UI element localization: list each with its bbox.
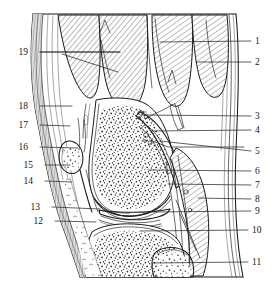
quadriceps-muscle-belly-anterior bbox=[58, 15, 100, 98]
label-numbers-right: 1234567891011 bbox=[252, 36, 262, 267]
label-number-15: 15 bbox=[24, 160, 34, 170]
anatomy-drawing-canvas: 1918171615141312 1234567891011 bbox=[0, 0, 280, 291]
label-number-18: 18 bbox=[19, 101, 29, 111]
hamstring-muscle-belly-posterior bbox=[152, 15, 193, 106]
label-number-13: 13 bbox=[31, 202, 41, 212]
label-number-17: 17 bbox=[19, 120, 29, 130]
leader-line-4 bbox=[152, 130, 251, 131]
label-number-3: 3 bbox=[255, 111, 260, 121]
femur-shaft-and-condyle bbox=[89, 98, 174, 219]
label-number-16: 16 bbox=[19, 142, 29, 152]
label-number-11: 11 bbox=[252, 257, 261, 267]
gastrocnemius-muscle-belly bbox=[192, 15, 228, 97]
label-number-9: 9 bbox=[255, 206, 260, 216]
label-number-6: 6 bbox=[255, 166, 260, 176]
label-number-8: 8 bbox=[255, 194, 260, 204]
label-number-2: 2 bbox=[255, 57, 260, 67]
label-number-10: 10 bbox=[252, 225, 262, 235]
label-number-4: 4 bbox=[255, 125, 260, 135]
label-number-7: 7 bbox=[255, 180, 260, 190]
quadriceps-muscle-belly-middle bbox=[99, 15, 148, 110]
label-number-12: 12 bbox=[34, 216, 44, 226]
suprapatellar-bursa-and-joint-capsule bbox=[83, 104, 90, 138]
label-number-19: 19 bbox=[19, 47, 29, 57]
knee-sagittal-section-figure: 1918171615141312 1234567891011 bbox=[0, 0, 280, 291]
label-number-1: 1 bbox=[255, 36, 260, 46]
label-number-14: 14 bbox=[24, 176, 34, 186]
label-number-5: 5 bbox=[255, 146, 260, 156]
leader-line-5 bbox=[160, 141, 251, 151]
